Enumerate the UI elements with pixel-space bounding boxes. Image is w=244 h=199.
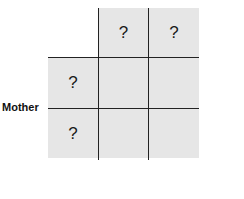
offspring-cell-2-1 <box>99 109 148 158</box>
row-header-2-text: ? <box>68 124 77 144</box>
grid-line-vertical-2 <box>148 8 149 160</box>
grid-line-horizontal-1 <box>48 57 199 58</box>
column-header-1-text: ? <box>119 23 128 43</box>
row-axis-label: Mother <box>2 101 39 113</box>
row-header-1: ? <box>48 58 98 108</box>
column-header-2: ? <box>149 8 199 57</box>
column-header-2-text: ? <box>169 23 178 43</box>
row-header-2: ? <box>48 109 98 158</box>
offspring-cell-2-2 <box>149 109 199 158</box>
grid-line-horizontal-2 <box>48 108 199 109</box>
row-header-1-text: ? <box>68 73 77 93</box>
offspring-cell-1-1 <box>99 58 148 108</box>
grid-line-vertical-1 <box>98 8 99 160</box>
offspring-cell-1-2 <box>149 58 199 108</box>
column-header-1: ? <box>99 8 148 57</box>
